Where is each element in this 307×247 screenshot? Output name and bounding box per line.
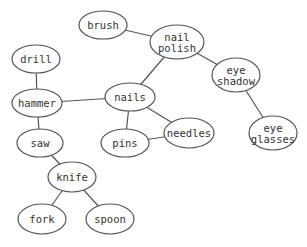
node-label: spoon bbox=[94, 213, 126, 225]
node-knife: knife bbox=[48, 162, 96, 192]
node-label: saw bbox=[31, 137, 51, 149]
node-saw: saw bbox=[17, 129, 63, 157]
node-label: knife bbox=[56, 171, 88, 183]
node-nail-polish: nailpolish bbox=[150, 25, 204, 59]
node-label: fork bbox=[29, 213, 55, 225]
node-nails: nails bbox=[105, 83, 155, 111]
diagram-canvas: brushnailpolishdrilleyeshadowhammernails… bbox=[0, 0, 307, 247]
node-hammer: hammer bbox=[12, 89, 62, 117]
node-spoon: spoon bbox=[86, 204, 134, 234]
graph-svg: brushnailpolishdrilleyeshadowhammernails… bbox=[0, 0, 307, 247]
node-eye-shadow: eyeshadow bbox=[212, 58, 260, 92]
node-needles: needles bbox=[164, 118, 214, 148]
node-label: brush bbox=[87, 19, 119, 31]
node-fork: fork bbox=[18, 204, 66, 234]
node-label: polish bbox=[158, 42, 196, 54]
node-eye-glasses: eyeglasses bbox=[249, 116, 297, 150]
node-label: glasses bbox=[251, 133, 295, 145]
node-label: pins bbox=[112, 137, 137, 149]
node-label: hammer bbox=[18, 97, 56, 109]
node-brush: brush bbox=[79, 11, 127, 39]
node-label: needles bbox=[167, 127, 211, 139]
node-pins: pins bbox=[101, 129, 149, 157]
node-label: drill bbox=[20, 53, 52, 65]
node-label: nails bbox=[114, 91, 146, 103]
node-drill: drill bbox=[12, 45, 60, 73]
node-label: shadow bbox=[217, 75, 256, 87]
